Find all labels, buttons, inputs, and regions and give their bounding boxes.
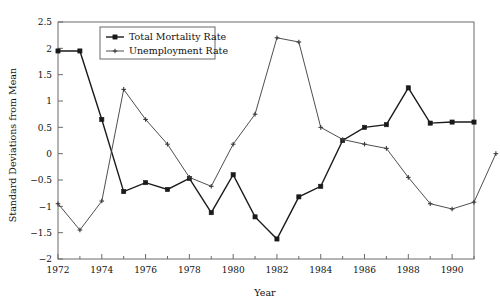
data-point-marker	[100, 117, 104, 121]
x-tick-label: 1986	[353, 265, 376, 275]
chart-background	[0, 0, 500, 301]
x-tick-label: 1984	[309, 265, 332, 275]
x-tick-label: 1988	[397, 265, 420, 275]
chart-legend: Total Mortality RateUnemployment Rate	[100, 27, 228, 59]
y-tick-label: 2.5	[38, 17, 53, 27]
x-tick-label: 1980	[222, 265, 245, 275]
y-tick-label: −1.5	[30, 228, 52, 238]
data-point-marker	[472, 120, 476, 124]
y-tick-label: 1	[46, 96, 52, 106]
data-point-marker	[143, 181, 147, 185]
x-tick-label: 1976	[134, 265, 157, 275]
standard-deviations-line-chart: −2−1.5−1−0.500.511.522.5 197219741976197…	[0, 0, 500, 301]
data-point-marker	[384, 123, 388, 127]
y-tick-label: −1	[39, 202, 52, 212]
y-axis-title: Standard Deviations from Mean	[7, 68, 18, 222]
y-tick-label: 0	[46, 149, 52, 159]
x-tick-label: 1972	[47, 265, 70, 275]
data-point-marker	[362, 125, 366, 129]
y-tick-label: 2	[46, 44, 52, 54]
x-tick-label: 1974	[90, 265, 113, 275]
x-tick-label: 1978	[178, 265, 201, 275]
y-tick-label: −2	[39, 254, 52, 264]
data-point-marker	[78, 49, 82, 53]
chart-container: −2−1.5−1−0.500.511.522.5 197219741976197…	[0, 0, 500, 301]
data-point-marker	[275, 237, 279, 241]
legend-label: Unemployment Rate	[129, 45, 228, 56]
y-tick-label: 0.5	[38, 123, 53, 133]
data-point-marker	[406, 86, 410, 90]
legend-marker-sample	[113, 35, 117, 39]
x-tick-label: 1982	[265, 265, 288, 275]
x-tick-label: 1990	[441, 265, 464, 275]
data-point-marker	[297, 195, 301, 199]
x-axis-title: Year	[253, 287, 276, 298]
data-point-marker	[253, 215, 257, 219]
y-tick-label: 1.5	[38, 70, 53, 80]
y-tick-label: −0.5	[30, 175, 52, 185]
data-point-marker	[450, 120, 454, 124]
data-point-marker	[165, 187, 169, 191]
data-point-marker	[122, 189, 126, 193]
data-point-marker	[428, 121, 432, 125]
data-point-marker	[209, 211, 213, 215]
data-point-marker	[231, 173, 235, 177]
data-point-marker	[56, 49, 60, 53]
legend-label: Total Mortality Rate	[129, 31, 226, 42]
data-point-marker	[319, 184, 323, 188]
